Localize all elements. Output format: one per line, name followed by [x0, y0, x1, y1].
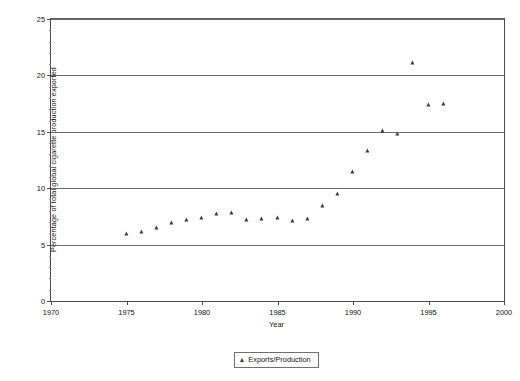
legend-box: Exports/Production: [234, 352, 318, 368]
data-point: [335, 191, 339, 195]
data-point: [365, 148, 369, 152]
y-tick-label-5: 5: [41, 240, 45, 249]
data-point: [260, 216, 264, 220]
y-tick-mark-9: [49, 199, 52, 200]
data-point: [305, 216, 309, 220]
data-point: [214, 212, 218, 216]
data-point: [124, 232, 128, 236]
x-tick-label-2000: 2000: [496, 308, 512, 317]
y-tick-mark-20: [47, 75, 51, 76]
y-tick-label-25: 25: [37, 15, 45, 24]
x-tick-mark-1995: [429, 301, 430, 305]
data-point: [230, 210, 234, 214]
data-point: [184, 217, 188, 221]
x-tick-label-1990: 1990: [345, 308, 361, 317]
plot-area: 05101520251970197519801985199019952000: [50, 18, 505, 302]
y-tick-mark-25: [47, 19, 51, 20]
y-tick-mark-7: [49, 222, 52, 223]
y-tick-label-10: 10: [37, 184, 45, 193]
legend: Exports/Production: [50, 352, 503, 368]
x-tick-label-1985: 1985: [269, 308, 285, 317]
y-tick-mark-18: [49, 98, 52, 99]
x-tick-mark-1975: [127, 301, 128, 305]
data-point: [154, 225, 158, 229]
y-tick-label-20: 20: [37, 71, 45, 80]
y-tick-mark-1: [49, 290, 52, 291]
chart-figure: Percentage of total global cigarette pro…: [0, 0, 520, 381]
data-point: [139, 230, 143, 234]
y-tick-mark-5: [47, 245, 51, 246]
data-point: [275, 215, 279, 219]
y-tick-mark-21: [49, 64, 52, 65]
data-point: [320, 204, 324, 208]
y-tick-mark-15: [47, 132, 51, 133]
y-tick-mark-14: [49, 143, 52, 144]
x-tick-label-1995: 1995: [420, 308, 436, 317]
y-tick-mark-10: [47, 188, 51, 189]
x-tick-mark-1985: [278, 301, 279, 305]
y-tick-mark-22: [49, 53, 52, 54]
y-tick-mark-4: [49, 256, 52, 257]
data-point: [396, 131, 400, 135]
data-point: [245, 217, 249, 221]
y-tick-mark-23: [49, 42, 52, 43]
y-tick-mark-6: [49, 233, 52, 234]
data-point: [199, 215, 203, 219]
gridline-y-15: [51, 132, 504, 133]
y-tick-mark-3: [49, 267, 52, 268]
y-tick-mark-12: [49, 166, 52, 167]
data-point: [441, 101, 445, 105]
y-tick-mark-11: [49, 177, 52, 178]
legend-entry-label: Exports/Production: [248, 355, 310, 364]
x-axis-title: Year: [50, 320, 503, 329]
y-tick-mark-16: [49, 121, 52, 122]
x-tick-label-1970: 1970: [43, 308, 59, 317]
gridline-y-5: [51, 245, 504, 246]
y-tick-mark-24: [49, 30, 52, 31]
y-tick-mark-2: [49, 278, 52, 279]
y-tick-mark-19: [49, 87, 52, 88]
data-point: [381, 128, 385, 132]
x-tick-mark-1980: [202, 301, 203, 305]
triangle-marker-icon: [240, 358, 244, 362]
y-tick-mark-8: [49, 211, 52, 212]
y-tick-label-0: 0: [41, 297, 45, 306]
gridline-y-10: [51, 188, 504, 189]
gridline-y-25: [51, 19, 504, 20]
data-point: [350, 170, 354, 174]
x-tick-mark-2000: [504, 301, 505, 305]
y-tick-mark-17: [49, 109, 52, 110]
gridline-y-20: [51, 75, 504, 76]
data-point: [290, 218, 294, 222]
x-tick-mark-1970: [51, 301, 52, 305]
y-tick-mark-13: [49, 154, 52, 155]
x-tick-mark-1990: [353, 301, 354, 305]
y-tick-label-15: 15: [37, 127, 45, 136]
data-point: [411, 60, 415, 64]
data-point: [169, 221, 173, 225]
x-tick-label-1980: 1980: [194, 308, 210, 317]
x-tick-label-1975: 1975: [118, 308, 134, 317]
data-point: [426, 102, 430, 106]
